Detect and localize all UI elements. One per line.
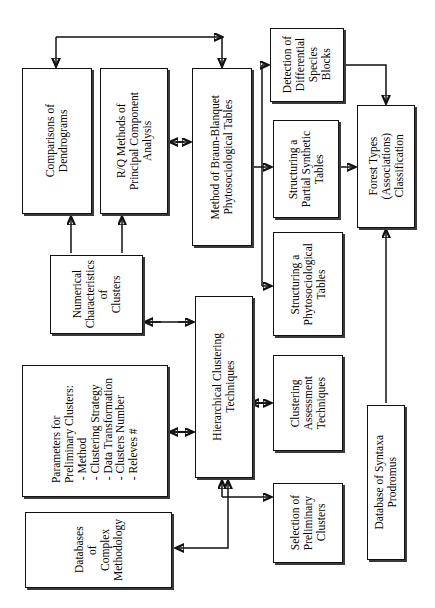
node-structuring-partial-synthetic-tables[interactable]: Structuring a Partial Synthetic Tables xyxy=(273,120,339,218)
node-detection-differential-species-blocks[interactable]: Detection of Differential Species Blocks xyxy=(270,28,344,102)
node-label: Hierarchical Clustering Techniques xyxy=(211,333,237,441)
edge-detection-to-forest-types xyxy=(344,65,386,103)
node-label: Numerical Characteristics of Clusters xyxy=(71,260,123,328)
node-clustering-assessment-techniques[interactable]: Clustering Assessment Techniques xyxy=(273,355,343,451)
edge-braun-fanout xyxy=(254,65,271,286)
node-rq-methods-pca[interactable]: R/Q Methods of Principal Component Analy… xyxy=(100,68,168,214)
node-parameters-preliminary-clusters[interactable]: Parameters for Preliminary Clusters: - M… xyxy=(22,365,168,497)
node-databases-complex-methodology[interactable]: Databases of Complex Methodology xyxy=(25,512,172,588)
node-label: Structuring a Partial Synthetic Tables xyxy=(287,131,326,207)
node-label: Method of Braun-Blanquet Phytosociologic… xyxy=(209,95,235,220)
node-method-braun-blanquet[interactable]: Method of Braun-Blanquet Phytosociologic… xyxy=(192,68,252,246)
node-hierarchical-clustering-techniques[interactable]: Hierarchical Clustering Techniques xyxy=(195,296,253,478)
node-label: Forest Types (Associations) Classificati… xyxy=(367,133,406,199)
node-label: Database of Syntaxa Prodromus xyxy=(373,435,399,530)
node-selection-preliminary-clusters[interactable]: Selection of Preliminary Clusters xyxy=(273,483,343,563)
edge-hierarchical-to-selection xyxy=(222,481,271,497)
flowchart-canvas: Comparisons of Dendrograms R/Q Methods o… xyxy=(0,0,435,608)
node-label: Detection of Differential Species Blocks xyxy=(281,36,333,93)
node-numerical-characteristics-clusters[interactable]: Numerical Characteristics of Clusters xyxy=(50,255,143,334)
edge-databases-to-hierarchical xyxy=(176,481,228,548)
node-label: Selection of Preliminary Clusters xyxy=(289,495,328,550)
node-label: Comparisons of Dendrograms xyxy=(44,104,70,177)
node-structuring-phytosociological-tables[interactable]: Structuring a Phytosociological Tables xyxy=(273,232,343,336)
node-label: Structuring a Phytosociological Tables xyxy=(289,243,328,325)
node-label: Parameters for Preliminary Clusters: - M… xyxy=(50,378,140,483)
node-label: Databases of Complex Methodology xyxy=(73,519,125,581)
node-label: R/Q Methods of Principal Component Analy… xyxy=(115,92,154,190)
node-label: Clustering Assessment Techniques xyxy=(289,376,328,430)
edge-braun-to-comparisons xyxy=(56,37,222,66)
node-forest-types-classification[interactable]: Forest Types (Associations) Classificati… xyxy=(357,105,415,228)
node-database-syntaxa-prodromus[interactable]: Database of Syntaxa Prodromus xyxy=(367,405,405,560)
node-comparisons-of-dendrograms[interactable]: Comparisons of Dendrograms xyxy=(22,68,92,214)
